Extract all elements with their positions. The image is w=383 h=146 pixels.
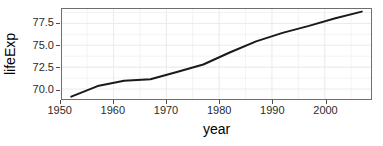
- y-tick-mark: [56, 23, 60, 24]
- x-axis-title: year: [61, 121, 372, 137]
- x-tick-label: 1950: [47, 105, 71, 116]
- y-tick-label: 70.0: [33, 84, 54, 95]
- x-tick-label: 1990: [260, 105, 284, 116]
- y-tick-label: 72.5: [33, 62, 54, 73]
- y-tick-label: 77.5: [33, 17, 54, 28]
- y-axis-title-text: lifeExp: [2, 33, 18, 75]
- y-tick-label: 75.0: [33, 40, 54, 51]
- y-tick-mark: [56, 67, 60, 68]
- plot-panel: [61, 8, 372, 100]
- y-axis-title: lifeExp: [2, 8, 18, 100]
- x-tick-label: 1970: [154, 105, 178, 116]
- x-tick-label: 1960: [101, 105, 125, 116]
- data-line-series: [62, 9, 371, 99]
- y-tick-mark: [56, 45, 60, 46]
- x-tick-label: 1980: [207, 105, 231, 116]
- y-tick-mark: [56, 90, 60, 91]
- x-tick-label: 2000: [313, 105, 337, 116]
- line-chart: lifeExp 70.072.575.077.5 195019601970198…: [0, 0, 383, 146]
